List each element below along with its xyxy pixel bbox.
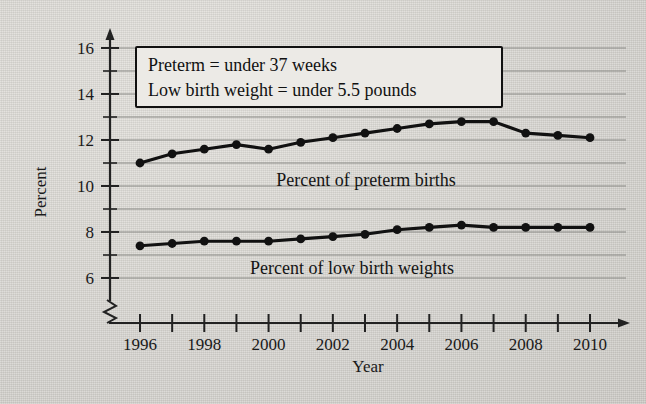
x-tick-label: 2008 <box>509 335 543 354</box>
data-point <box>521 223 530 232</box>
data-point <box>361 230 370 239</box>
series-label-low-birth-weight: Percent of low birth weights <box>250 258 454 278</box>
data-point <box>553 131 562 140</box>
definition-note-box: Preterm = under 37 weeks Low birth weigh… <box>136 47 502 107</box>
y-tick-label: 10 <box>77 177 94 196</box>
y-tick-label: 16 <box>77 39 94 58</box>
x-tick-label: 1998 <box>187 335 221 354</box>
data-series <box>136 117 595 167</box>
data-point <box>296 138 305 147</box>
data-point <box>425 120 434 129</box>
data-point <box>328 133 337 142</box>
data-point <box>586 223 595 232</box>
line-chart: 6810121416 19961998200020022004200620082… <box>0 0 646 404</box>
data-point <box>489 223 498 232</box>
data-point <box>168 239 177 248</box>
data-point <box>328 232 337 241</box>
y-axis-tick-labels: 6810121416 <box>77 39 95 288</box>
data-point <box>586 133 595 142</box>
x-tick-label: 2010 <box>573 335 607 354</box>
data-point <box>168 149 177 158</box>
data-point <box>489 117 498 126</box>
x-tick-label: 2002 <box>316 335 350 354</box>
data-point <box>232 237 241 246</box>
x-tick-label: 2006 <box>444 335 478 354</box>
data-point <box>457 221 466 230</box>
data-point <box>136 241 145 250</box>
data-point <box>200 237 209 246</box>
data-point <box>553 223 562 232</box>
x-tick-label: 2004 <box>380 335 415 354</box>
y-tick-label: 14 <box>77 85 95 104</box>
note-line-2: Low birth weight = under 5.5 pounds <box>148 80 417 100</box>
x-tick-label: 2000 <box>252 335 286 354</box>
y-tick-label: 8 <box>86 223 95 242</box>
note-line-1: Preterm = under 37 weeks <box>148 55 337 75</box>
data-point <box>457 117 466 126</box>
y-axis-title: Percent <box>31 166 50 217</box>
series-line <box>140 122 590 163</box>
x-axis-title: Year <box>352 357 384 376</box>
x-axis-arrowhead <box>618 319 630 328</box>
y-tick-label: 6 <box>86 269 95 288</box>
x-tick-label: 1996 <box>123 335 157 354</box>
data-point <box>361 129 370 138</box>
data-point <box>136 159 145 168</box>
data-point <box>393 124 402 133</box>
data-point <box>232 140 241 149</box>
data-point <box>264 237 273 246</box>
data-point <box>521 129 530 138</box>
data-series <box>136 221 595 251</box>
data-point <box>393 225 402 234</box>
x-axis-break-icon <box>104 300 116 323</box>
y-axis-arrowhead <box>106 28 115 40</box>
data-point <box>200 145 209 154</box>
y-tick-label: 12 <box>77 131 94 150</box>
x-axis-tick-labels: 19961998200020022004200620082010 <box>123 335 607 354</box>
data-point <box>264 145 273 154</box>
data-point <box>296 235 305 244</box>
series-label-preterm: Percent of preterm births <box>276 170 455 190</box>
data-point <box>425 223 434 232</box>
